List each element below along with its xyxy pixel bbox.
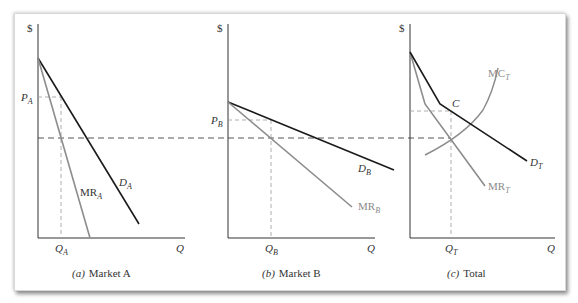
- mc-total-label: MCT: [488, 67, 510, 82]
- demand-total-label: DT: [529, 156, 543, 171]
- mr-a-label: MRA: [80, 186, 102, 201]
- quantity-a-label: QA: [55, 242, 68, 257]
- point-c-label: C: [452, 97, 460, 109]
- demand-a-label: DA: [118, 176, 132, 191]
- panel-market-a: $ Q PA QA DA MRA (a)Market A: [20, 22, 185, 280]
- mr-total-label: MRT: [488, 180, 510, 195]
- quantity-b-label: QB: [265, 242, 278, 257]
- x-axis-label: Q: [547, 242, 555, 254]
- quantity-t-label: QT: [445, 242, 458, 257]
- caption-c: (c)Total: [447, 267, 486, 280]
- caption-a: (a)Market A: [72, 267, 131, 280]
- price-discrimination-diagram: $ Q PA QA DA MRA (a)Market A $ Q PB QB D…: [0, 0, 578, 303]
- y-axis-label: $: [399, 22, 405, 34]
- panel-market-b: $ Q PB QB DB MRB (b)Market B: [210, 22, 394, 280]
- demand-curve-a: [38, 58, 139, 224]
- mr-curve-b: [228, 102, 352, 207]
- mr-b-label: MRB: [358, 200, 380, 215]
- price-b-label: PB: [210, 114, 223, 129]
- mr-curve-a: [38, 58, 90, 238]
- x-axis-label: Q: [367, 242, 375, 254]
- demand-b-label: DB: [357, 162, 371, 177]
- y-axis-label: $: [27, 22, 33, 34]
- demand-curve-b: [228, 102, 394, 170]
- x-axis-label: Q: [176, 242, 184, 254]
- y-axis-label: $: [217, 22, 223, 34]
- caption-b: (b)Market B: [262, 267, 321, 280]
- panel-total: $ Q C MCT DT MRT QT (c)Total: [399, 22, 555, 280]
- price-a-label: PA: [20, 91, 33, 106]
- mc-curve-total: [425, 68, 498, 155]
